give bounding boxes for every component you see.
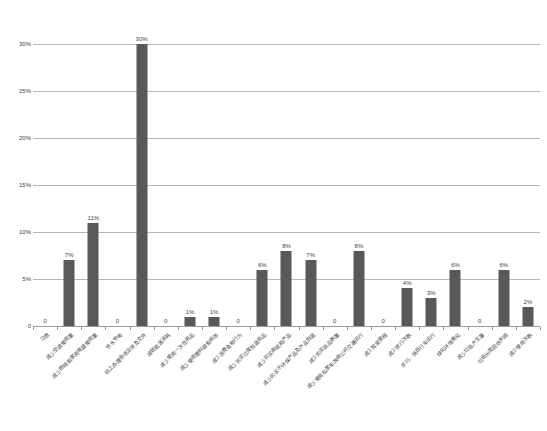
x-axis-category-text: 减少照明和家用电器使用量: [52, 331, 100, 379]
bar-group: 0: [105, 44, 129, 326]
x-axis-category-label: 减少使用次数: [508, 331, 535, 358]
x-axis-category-text: 节水节电: [105, 331, 125, 351]
bar: [305, 260, 316, 326]
x-axis-tick: [81, 327, 82, 330]
x-axis-tick: [419, 327, 420, 330]
x-axis-tick: [299, 327, 300, 330]
bar-group: 0: [226, 44, 250, 326]
bar: [184, 317, 195, 326]
bar: [522, 307, 533, 326]
bar-group: 0: [371, 44, 395, 326]
bar-group: 0: [323, 44, 347, 326]
bar: [426, 298, 437, 326]
bar: [64, 260, 75, 326]
bar-group: 0: [33, 44, 57, 326]
x-axis-tick: [57, 327, 58, 330]
x-axis-tick: [226, 327, 227, 330]
x-axis-category-label: 习惯: [39, 331, 51, 343]
bar: [281, 251, 292, 326]
x-axis-tick: [323, 327, 324, 330]
bar-value-label: 0: [333, 318, 336, 324]
y-axis-tick-label: 0: [3, 323, 31, 329]
x-axis-tick: [516, 327, 517, 330]
bar-value-label: 0: [116, 318, 119, 324]
y-axis-tick-label: 25%: [3, 88, 31, 94]
bar-group: 6%: [250, 44, 274, 326]
x-axis-tick: [395, 327, 396, 330]
bar: [209, 317, 220, 326]
bar: [450, 270, 461, 326]
bars-layer: 07%11%030%01%1%06%8%7%08%04%3%6%06%2%: [33, 44, 540, 326]
x-axis-tick: [540, 327, 541, 330]
bar: [88, 223, 99, 326]
bar-group: 11%: [81, 44, 105, 326]
bar-value-label: 1%: [210, 309, 219, 315]
bar-value-label: 0: [43, 318, 46, 324]
bar: [402, 288, 413, 326]
bar-value-label: 6%: [258, 262, 267, 268]
bar-chart: 30%25%20%15%10%5%0 07%11%030%01%1%06%8%7…: [0, 0, 547, 431]
x-axis-tick: [33, 327, 34, 330]
bar-value-label: 7%: [306, 252, 315, 258]
bar-group: 30%: [130, 44, 154, 326]
y-axis: 30%25%20%15%10%5%0: [0, 44, 31, 326]
x-axis-category-text: 减少使用次数: [508, 331, 535, 358]
bar-group: 7%: [299, 44, 323, 326]
bar-group: 0: [154, 44, 178, 326]
x-axis-category-text: 习惯: [39, 331, 51, 343]
bar-group: 4%: [395, 44, 419, 326]
y-axis-tick-label: 20%: [3, 135, 31, 141]
y-axis-tick-label: 5%: [3, 276, 31, 282]
bar-value-label: 3%: [427, 290, 436, 296]
bar-value-label: 30%: [136, 36, 148, 42]
bar-group: 7%: [57, 44, 81, 326]
x-axis-category-label: 减少照明和家用电器使用量: [52, 331, 100, 379]
x-axis-category-label: 网上办理各项业务及文件: [104, 331, 149, 376]
x-axis-tick: [202, 327, 203, 330]
x-axis-tick: [443, 327, 444, 330]
x-axis-tick: [347, 327, 348, 330]
bar-group: 3%: [419, 44, 443, 326]
x-axis-tick: [105, 327, 106, 330]
x-axis-tick: [371, 327, 372, 330]
x-axis-line: [33, 326, 540, 327]
bar-value-label: 1%: [186, 309, 195, 315]
bar-group: 6%: [492, 44, 516, 326]
bar: [257, 270, 268, 326]
x-axis-category-label: 节水节电: [105, 331, 125, 351]
x-axis-tick: [130, 327, 131, 330]
x-axis-tick: [154, 327, 155, 330]
bar-value-label: 6%: [499, 262, 508, 268]
bar-value-label: 0: [381, 318, 384, 324]
bar-group: 2%: [516, 44, 540, 326]
x-axis-tick: [274, 327, 275, 330]
bar: [353, 251, 364, 326]
bar-group: 1%: [178, 44, 202, 326]
bar-value-label: 2%: [524, 299, 533, 305]
bar-group: 6%: [443, 44, 467, 326]
bar-value-label: 0: [164, 318, 167, 324]
bar-value-label: 8%: [355, 243, 364, 249]
x-axis-tick: [250, 327, 251, 330]
y-axis-tick-label: 10%: [3, 229, 31, 235]
y-axis-tick-label: 15%: [3, 182, 31, 188]
bar: [498, 270, 509, 326]
bar-value-label: 0: [478, 318, 481, 324]
x-axis-tick: [178, 327, 179, 330]
bar-group: 8%: [274, 44, 298, 326]
x-axis-labels: 习惯减少空调使用量减少照明和家用电器使用量节水节电网上办理各项业务及文件减轻能源…: [33, 331, 540, 431]
bar-value-label: 4%: [403, 280, 412, 286]
bar-value-label: 7%: [65, 252, 74, 258]
x-axis-tick: [468, 327, 469, 330]
y-axis-tick-label: 30%: [3, 41, 31, 47]
x-axis-category-text: 网上办理各项业务及文件: [104, 331, 149, 376]
bar-group: 1%: [202, 44, 226, 326]
x-axis-tick: [492, 327, 493, 330]
bar-value-label: 8%: [282, 243, 291, 249]
bar-group: 8%: [347, 44, 371, 326]
bar-group: 0: [468, 44, 492, 326]
bar-value-label: 11%: [88, 215, 100, 221]
bar-value-label: 0: [237, 318, 240, 324]
bar-value-label: 6%: [451, 262, 460, 268]
bar: [136, 44, 147, 326]
